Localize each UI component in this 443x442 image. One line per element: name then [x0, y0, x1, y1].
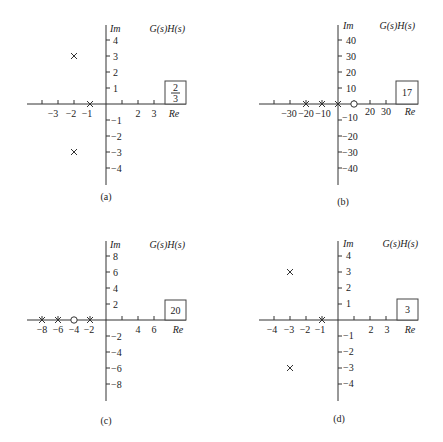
- panel-a: −3 −2 −1 2 3 4 3 2 1 −1 −2 −3 −4 Im Re G…: [27, 23, 186, 203]
- x-ticks: [122, 316, 154, 320]
- panel-d: −4 −3 −2 −1 2 3 4 3 2 1 −1 −2 −3 −4 Im G…: [259, 238, 419, 425]
- y-tick-label: −4: [111, 163, 122, 174]
- x-tick-label: 3: [385, 324, 390, 335]
- x-tick-label: 30: [381, 106, 391, 117]
- panel-caption: (b): [337, 196, 349, 208]
- x-tick-label: −3: [48, 108, 59, 119]
- panel-c: −8 −6 −4 −2 4 6 8 6 4 2 −2 −4 −6 −8 Im G…: [27, 239, 186, 427]
- y-tick-label: −20: [342, 131, 358, 142]
- real-axis-label: Re: [168, 108, 180, 119]
- x-tick-label: −2: [84, 324, 95, 335]
- y-tick-label: −1: [343, 330, 354, 341]
- x-tick-label: 2: [136, 108, 141, 119]
- y-tick-label: −10: [342, 112, 358, 123]
- real-axis-label: Re: [404, 324, 416, 335]
- y-tick-label: 4: [346, 250, 351, 261]
- x-tick-label: −1: [315, 324, 326, 335]
- y-tick-label: −4: [111, 347, 122, 358]
- x-tick-label: −2: [66, 108, 77, 119]
- y-tick-label: 8: [113, 251, 118, 262]
- x-tick-label: 20: [365, 106, 375, 117]
- x-tick-label: −10: [315, 108, 331, 119]
- pole-marker-icon: [287, 269, 293, 275]
- zero-marker-icon: [351, 101, 357, 107]
- y-tick-label: 4: [113, 283, 118, 294]
- y-tick-label: −2: [111, 331, 122, 342]
- transfer-function-label: G(s)H(s): [379, 20, 415, 32]
- y-tick-label: 2: [113, 67, 118, 78]
- y-tick-label: −3: [111, 147, 122, 158]
- y-tick-label: −4: [343, 378, 354, 389]
- real-axis-label: Re: [172, 324, 184, 335]
- x-tick-label: −20: [298, 108, 314, 119]
- panel-b: −30 −20 −10 20 30 40 30 20 10 −10 −20 −3…: [259, 20, 418, 208]
- transfer-function-label: G(s)H(s): [382, 238, 418, 250]
- y-tick-label: −30: [342, 147, 358, 158]
- x-tick-label: 2: [369, 324, 374, 335]
- y-tick-label: −40: [342, 163, 358, 174]
- y-tick-label: 40: [346, 35, 356, 46]
- x-ticks: [274, 316, 386, 320]
- y-tick-label: 6: [113, 267, 118, 278]
- y-tick-label: −1: [111, 115, 122, 126]
- y-tick-label: −2: [343, 346, 354, 357]
- x-ticks: [274, 100, 386, 104]
- pole-marker-icon: [71, 149, 77, 155]
- gain-value: 17: [402, 87, 412, 98]
- gain-value: 20: [171, 305, 181, 316]
- zero-marker-icon: [71, 317, 77, 323]
- y-tick-label: 20: [346, 67, 356, 78]
- x-tick-label: −6: [53, 324, 64, 335]
- panel-caption: (c): [100, 415, 111, 427]
- imag-axis-label: Im: [109, 23, 121, 34]
- y-tick-label: −3: [343, 362, 354, 373]
- y-tick-label: 2: [346, 282, 351, 293]
- x-tick-label: −4: [267, 324, 278, 335]
- pole-zero-figure: −3 −2 −1 2 3 4 3 2 1 −1 −2 −3 −4 Im Re G…: [0, 0, 443, 442]
- y-tick-label: 3: [346, 266, 351, 277]
- y-tick-label: 10: [346, 83, 356, 94]
- imag-axis-label: Im: [109, 239, 121, 250]
- x-tick-label: −3: [284, 324, 295, 335]
- transfer-function-label: G(s)H(s): [149, 23, 185, 35]
- x-tick-label: 3: [152, 108, 157, 119]
- pole-marker-icon: [71, 53, 77, 59]
- transfer-function-label: G(s)H(s): [149, 239, 185, 251]
- y-tick-label: 3: [113, 51, 118, 62]
- panel-caption: (d): [333, 413, 345, 425]
- real-axis-label: Re: [404, 106, 416, 117]
- y-tick-label: 1: [346, 298, 351, 309]
- imag-axis-label: Im: [342, 238, 354, 249]
- imag-axis-label: Im: [342, 20, 354, 31]
- gain-denominator: 3: [173, 93, 178, 104]
- gain-value: 3: [405, 304, 410, 315]
- x-tick-label: 6: [152, 324, 157, 335]
- x-tick-label: −30: [281, 108, 297, 119]
- x-tick-label: −2: [300, 324, 311, 335]
- x-tick-label: 4: [136, 324, 141, 335]
- y-tick-label: 4: [113, 35, 118, 46]
- y-tick-label: 30: [346, 51, 356, 62]
- y-tick-label: −2: [111, 131, 122, 142]
- y-tick-label: 1: [113, 83, 118, 94]
- x-tick-label: −4: [69, 324, 80, 335]
- gain-numerator: 2: [173, 82, 178, 93]
- x-ticks: [42, 100, 154, 104]
- x-tick-label: −1: [82, 108, 93, 119]
- panel-caption: (a): [100, 191, 111, 203]
- y-tick-label: 2: [113, 299, 118, 310]
- y-tick-label: −8: [111, 379, 122, 390]
- y-tick-label: −6: [111, 363, 122, 374]
- x-tick-label: −8: [37, 324, 48, 335]
- pole-marker-icon: [287, 365, 293, 371]
